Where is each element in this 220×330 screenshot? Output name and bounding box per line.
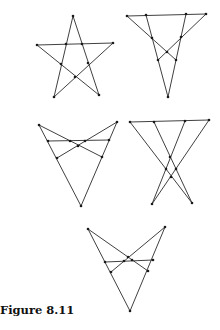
point	[72, 15, 75, 18]
point	[104, 261, 107, 264]
figure-inverted-triangle-crossed	[126, 13, 208, 99]
point	[77, 145, 80, 148]
figure-caption: Figure 8.11	[0, 303, 74, 317]
point	[110, 271, 113, 274]
point	[175, 59, 178, 62]
point	[112, 42, 115, 45]
point	[191, 202, 194, 205]
segment	[130, 120, 209, 122]
point	[65, 43, 68, 46]
point	[175, 168, 178, 171]
segment	[54, 43, 113, 97]
segment	[111, 227, 165, 272]
point	[126, 15, 129, 18]
point	[81, 43, 84, 46]
point	[166, 51, 169, 54]
figure-8-11-diagram	[0, 0, 220, 330]
figure-pentagram	[36, 15, 115, 99]
point	[152, 259, 155, 262]
segment	[81, 122, 117, 206]
point	[180, 36, 183, 39]
segment	[88, 229, 148, 271]
segment	[73, 16, 99, 95]
point	[131, 259, 134, 262]
point	[165, 168, 168, 171]
figure-bowtie-triangle-left	[38, 121, 119, 208]
point	[151, 37, 154, 40]
point	[157, 59, 160, 62]
point	[53, 96, 56, 99]
point	[69, 140, 72, 143]
segment	[37, 45, 99, 95]
segment	[105, 260, 153, 262]
segment	[146, 15, 168, 97]
point	[36, 44, 39, 47]
figure-bowtie-triangle-bottom	[87, 226, 167, 313]
point	[145, 14, 148, 17]
point	[123, 260, 126, 263]
point	[56, 157, 59, 160]
segment	[88, 229, 130, 311]
point	[74, 76, 77, 79]
point	[167, 96, 170, 99]
segment	[154, 122, 192, 203]
segment	[130, 227, 165, 311]
point	[170, 176, 173, 179]
figure-crossed-legs	[129, 119, 211, 206]
point	[185, 13, 188, 16]
point	[129, 310, 132, 313]
point	[87, 228, 90, 231]
point	[98, 94, 101, 97]
segment	[127, 14, 206, 16]
point	[169, 156, 172, 159]
point	[60, 63, 63, 66]
point	[208, 119, 211, 122]
point	[184, 120, 187, 123]
point	[147, 270, 150, 273]
point	[153, 121, 156, 124]
segment	[48, 140, 109, 141]
point	[47, 140, 50, 143]
point	[87, 62, 90, 65]
point	[84, 140, 87, 143]
point	[116, 121, 119, 124]
point	[38, 124, 41, 127]
point	[127, 256, 130, 259]
segment	[39, 125, 81, 206]
point	[205, 13, 208, 16]
point	[129, 121, 132, 124]
point	[80, 205, 83, 208]
point	[101, 156, 104, 159]
segment	[37, 43, 113, 45]
point	[108, 139, 111, 142]
segment	[54, 16, 73, 97]
point	[164, 226, 167, 229]
point	[151, 203, 154, 206]
